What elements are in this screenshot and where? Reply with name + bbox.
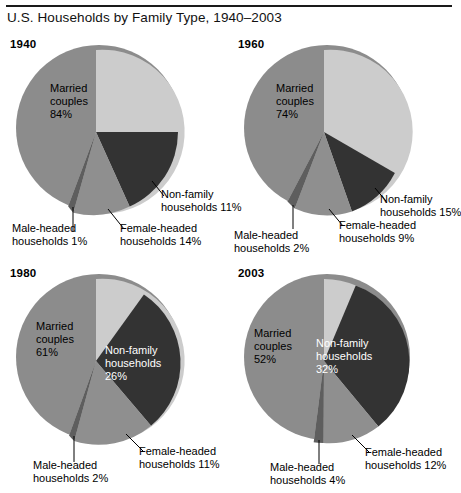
slice-label-line: households (105, 357, 161, 370)
slice-label-line: 52% (254, 353, 292, 366)
slice-label-line: Married (254, 327, 292, 340)
pie-panel-1960: 1960 Married couples 74% Non-family hous… (228, 33, 457, 262)
slice-label-line: 84% (50, 108, 88, 121)
slice-label-married-couples: Married couples 74% (276, 82, 314, 122)
callout-line: households 14% (120, 235, 201, 248)
callout-line: households 1% (12, 235, 87, 248)
callout-line: Non-family (380, 193, 461, 206)
slice-label-line: 26% (105, 370, 161, 383)
callout-line: Female-headed (339, 219, 416, 232)
callout-line: Male-headed (12, 222, 87, 235)
title-rule (6, 5, 452, 7)
callout-line: Male-headed (33, 459, 108, 472)
page-title: U.S. Households by Family Type, 1940–200… (7, 10, 282, 25)
slice-label-line: Non-family (316, 337, 372, 350)
slice-label-non-family-households: Non-family households 32% (316, 337, 372, 377)
slice-label-line: 32% (316, 363, 372, 376)
slice-label-line: 74% (276, 108, 314, 121)
callout-male-headed-households: Male-headed households 1% (12, 222, 87, 248)
callout-female-headed-households: Female-headed households 14% (120, 222, 201, 248)
callout-non-family-households: Non-family households 15% (380, 193, 461, 219)
callout-female-headed-households: Female-headed households 12% (365, 446, 446, 472)
callout-line: households 4% (270, 474, 345, 487)
slice-label-line: households (316, 350, 372, 363)
slice-label-married-couples: Married couples 52% (254, 327, 292, 367)
slice-label-line: Married (50, 82, 88, 95)
callout-male-headed-households: Male-headed households 2% (33, 459, 108, 485)
pie-panel-1940: 1940 Married couples 84% Non-family (0, 33, 229, 262)
callout-line: households 2% (33, 472, 108, 485)
slice-label-line: Married (276, 82, 314, 95)
callout-line: Male-headed (270, 461, 345, 474)
callout-male-headed-households: Male-headed households 4% (270, 461, 345, 487)
slice-label-line: couples (36, 333, 74, 346)
callout-line: Female-headed (365, 446, 446, 459)
callout-line: households 15% (380, 206, 461, 219)
callout-line: households 2% (234, 242, 309, 255)
callout-female-headed-households: Female-headed households 9% (339, 219, 416, 245)
slice-label-married-couples: Married couples 84% (50, 82, 88, 122)
slice-label-married-couples: Married couples 61% (36, 320, 74, 360)
pie-panel-2003: 2003 Married couples 52% Non-family hous… (228, 262, 457, 491)
slice-label-line: 61% (36, 346, 74, 359)
slice-label-line: couples (254, 340, 292, 353)
callout-line: Male-headed (234, 229, 309, 242)
callout-line: households 12% (365, 459, 446, 472)
slice-label-line: couples (50, 95, 88, 108)
callout-line: households 9% (339, 232, 416, 245)
slice-label-non-family-households: Non-family households 26% (105, 344, 161, 384)
callout-female-headed-households: Female-headed households 11% (139, 445, 220, 471)
callout-line: households 11% (139, 458, 220, 471)
slice-label-line: Non-family (105, 344, 161, 357)
callout-line: Female-headed (120, 222, 201, 235)
callout-male-headed-households: Male-headed households 2% (234, 229, 309, 255)
slice-label-line: couples (276, 95, 314, 108)
pie-panel-1980: 1980 Married couples 61% Non-family hous… (0, 262, 229, 491)
slice-label-line: Married (36, 320, 74, 333)
callout-line: Female-headed (139, 445, 220, 458)
